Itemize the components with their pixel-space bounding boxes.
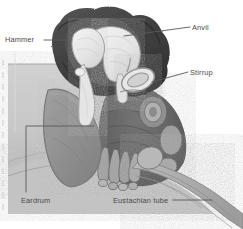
label-hammer: Hammer xyxy=(5,35,34,44)
label-eardrum: Eardrum xyxy=(21,196,50,205)
label-anvil: Anvil xyxy=(192,23,209,32)
page-margin-ticks xyxy=(0,0,243,229)
label-eustachian-tube: Eustachian tube xyxy=(113,196,168,205)
label-stirrup: Stirrup xyxy=(190,68,213,77)
middle-ear-figure: Hammer Anvil Stirrup Eardrum Eustachian … xyxy=(0,0,243,229)
